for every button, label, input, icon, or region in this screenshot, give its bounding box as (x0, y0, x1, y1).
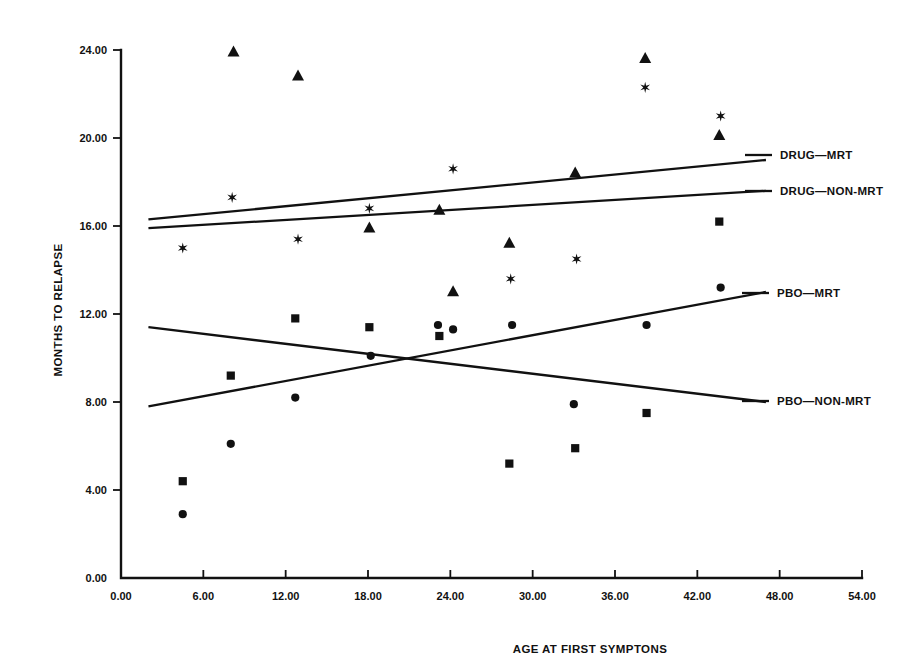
data-point-square (642, 409, 650, 417)
legend-item-pbo-mrt: PBO—MRT (742, 287, 840, 299)
data-point-circle (179, 510, 187, 518)
data-point-asterisk (448, 163, 458, 174)
y-tick-label: 20.00 (79, 132, 107, 144)
regression-line-pbo-mrt (148, 292, 766, 406)
data-point-circle (717, 284, 725, 292)
y-tick-label: 4.00 (86, 484, 107, 496)
plot-canvas: 0.006.0012.0018.0024.0030.0036.0042.0048… (0, 0, 920, 664)
x-axis-title: AGE AT FIRST SYMPTONS (513, 643, 668, 655)
data-point-asterisk (716, 110, 726, 121)
data-point-triangle (639, 52, 651, 63)
data-point-asterisk (178, 242, 188, 253)
data-point-square (227, 372, 235, 380)
data-point-circle (227, 440, 235, 448)
y-axis-title: MONTHS TO RELAPSE (52, 243, 64, 376)
x-tick-label: 12.00 (272, 590, 300, 602)
axis-lines (121, 50, 862, 578)
data-point-square (505, 460, 513, 468)
axes (121, 50, 862, 578)
data-point-square (179, 477, 187, 485)
data-point-triangle (503, 237, 515, 248)
data-point-square (715, 218, 723, 226)
data-point-square (435, 332, 443, 340)
legend-item-drug-mrt: DRUG—MRT (745, 149, 853, 161)
y-tick-label: 24.00 (79, 44, 107, 56)
data-point-circle (291, 394, 299, 402)
data-point-triangle (447, 285, 459, 296)
data-point-square (365, 323, 373, 331)
regression-line-pbo-non-mrt (148, 327, 766, 402)
x-tick-label: 42.00 (684, 590, 712, 602)
data-point-triangle (228, 45, 240, 56)
data-point-asterisk (506, 273, 516, 284)
data-point-circle (508, 321, 516, 329)
legend-label: DRUG—MRT (780, 149, 853, 161)
y-axis-tick-labels: 0.004.008.0012.0016.0020.0024.00 (79, 44, 107, 584)
x-tick-label: 48.00 (766, 590, 794, 602)
data-point-triangle (713, 129, 725, 140)
data-point-square (571, 444, 579, 452)
data-point-asterisk (640, 82, 650, 93)
data-point-triangle (363, 221, 375, 232)
data-point-circle (642, 321, 650, 329)
data-point-square (291, 314, 299, 322)
y-tick-label: 0.00 (86, 572, 107, 584)
x-tick-label: 54.00 (848, 590, 876, 602)
x-axis-tick-labels: 0.006.0012.0018.0024.0030.0036.0042.0048… (110, 590, 875, 602)
x-tick-label: 6.00 (193, 590, 214, 602)
data-point-circle (434, 321, 442, 329)
data-point-circle (570, 400, 578, 408)
legend-label: PBO—NON-MRT (777, 395, 871, 407)
x-tick-label: 36.00 (601, 590, 629, 602)
data-point-asterisk (572, 253, 582, 264)
y-tick-label: 12.00 (79, 308, 107, 320)
legend-label: PBO—MRT (777, 287, 840, 299)
y-tick-label: 16.00 (79, 220, 107, 232)
legend-item-drug-non-mrt: DRUG—NON-MRT (745, 185, 883, 197)
x-tick-label: 24.00 (437, 590, 465, 602)
regression-lines (148, 160, 766, 406)
x-tick-label: 30.00 (519, 590, 547, 602)
data-points (178, 45, 726, 518)
data-point-triangle (292, 70, 304, 81)
data-point-triangle (569, 166, 581, 177)
data-point-asterisk (227, 192, 237, 203)
data-point-circle (367, 352, 375, 360)
y-tick-label: 8.00 (86, 396, 107, 408)
legend-item-pbo-non-mrt: PBO—NON-MRT (742, 395, 871, 407)
data-point-asterisk (365, 203, 375, 214)
scatter-chart: 0.006.0012.0018.0024.0030.0036.0042.0048… (0, 0, 920, 664)
data-point-circle (449, 325, 457, 333)
data-point-asterisk (293, 234, 303, 245)
legend: DRUG—MRTDRUG—NON-MRTPBO—MRTPBO—NON-MRT (742, 149, 883, 407)
x-tick-label: 0.00 (110, 590, 131, 602)
x-tick-label: 18.00 (354, 590, 382, 602)
legend-label: DRUG—NON-MRT (780, 185, 883, 197)
